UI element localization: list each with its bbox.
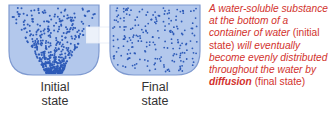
final-label-line1: Final: [120, 80, 190, 94]
diffusion-description: A water-soluble substance at the bottom …: [209, 3, 333, 88]
initial-state-label: Initial state: [20, 80, 90, 108]
final-state-beaker: [109, 3, 201, 77]
desc-final-state: (final state): [252, 76, 305, 87]
desc-diffusion-term: diffusion: [209, 76, 252, 87]
initial-label-line1: Initial: [20, 80, 90, 94]
final-state-label: Final state: [120, 80, 190, 108]
initial-label-line2: state: [20, 94, 90, 108]
final-label-line2: state: [120, 94, 190, 108]
